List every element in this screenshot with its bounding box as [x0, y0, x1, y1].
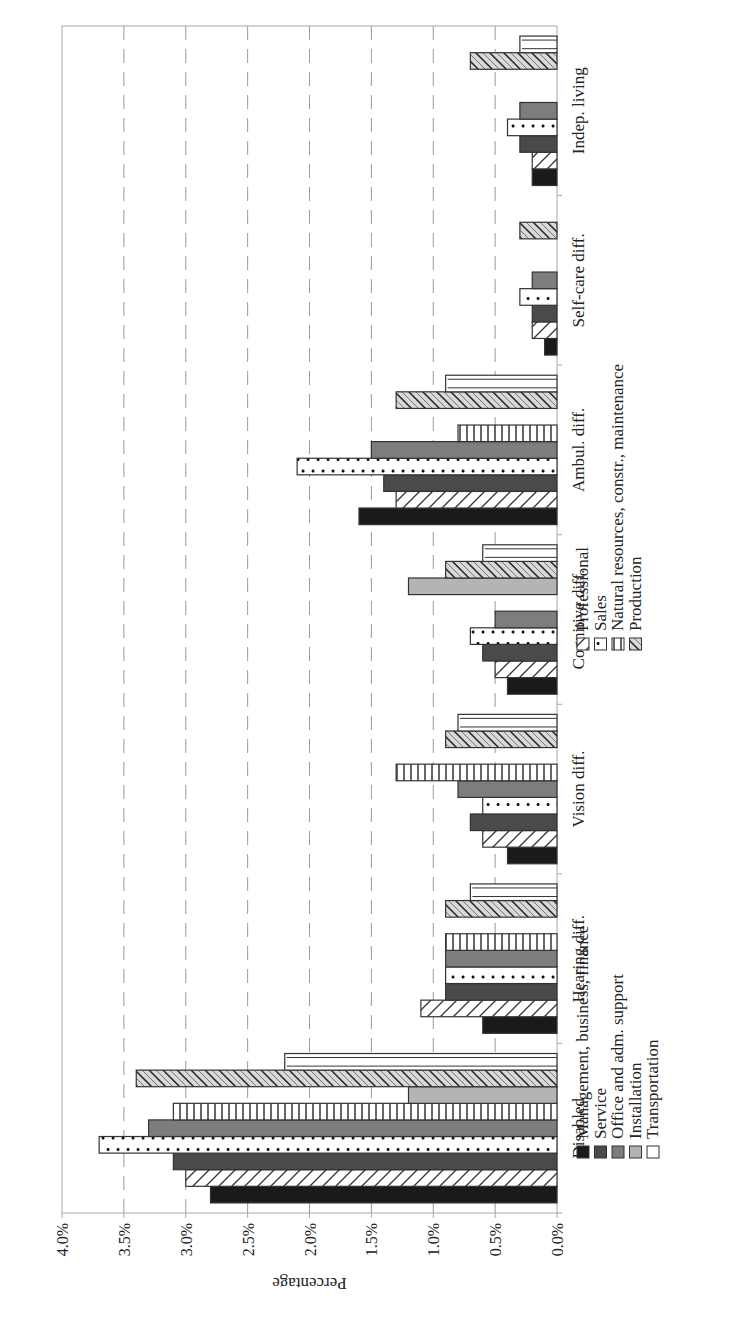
- bar-transportation: [446, 375, 557, 392]
- bar-service: [173, 1153, 557, 1170]
- legend-item: Sales: [591, 595, 610, 650]
- bar-transportation: [458, 714, 557, 731]
- bar-management: [483, 1017, 557, 1034]
- legend-swatch-icon: [577, 638, 589, 650]
- bar-professional: [532, 322, 557, 339]
- bar-management: [532, 169, 557, 186]
- bar-natural: [446, 934, 557, 951]
- bar-professional: [186, 1170, 557, 1187]
- legend-label: Management, business, finance: [573, 926, 592, 1139]
- bar-service: [520, 136, 557, 153]
- legend-item: Installation: [626, 1062, 645, 1158]
- bar-natural: [458, 425, 557, 442]
- y-tick-label: 3.5%: [116, 1223, 133, 1256]
- y-tick-label: 1.0%: [425, 1223, 442, 1256]
- category-label: Ambul. diff.: [569, 408, 588, 492]
- legend-item: Natural resources, constr., maintenance: [608, 364, 627, 650]
- bar-management: [545, 338, 557, 355]
- bar-sales: [520, 289, 557, 306]
- bar-installation: [409, 1087, 558, 1104]
- bar-office: [520, 102, 557, 119]
- category-label: Indep. living: [569, 67, 588, 154]
- bar-installation: [409, 578, 558, 595]
- bar-office: [458, 781, 557, 798]
- bar-production: [446, 731, 557, 748]
- legend-label: Sales: [591, 595, 610, 631]
- legend-label: Transportation: [643, 1039, 662, 1139]
- bar-natural: [173, 1103, 557, 1120]
- plot-frame: [62, 26, 557, 1213]
- y-tick-label: 2.0%: [302, 1223, 319, 1256]
- y-tick-label: 1.5%: [363, 1223, 380, 1256]
- legend-swatch-icon: [595, 1146, 607, 1158]
- bar-sales: [446, 967, 557, 984]
- bar-service: [470, 814, 557, 831]
- bar-sales: [508, 119, 558, 136]
- legend-label: Office and adm. support: [608, 974, 627, 1139]
- bar-production: [470, 53, 557, 70]
- bar-management: [359, 508, 557, 525]
- bar-management: [211, 1186, 558, 1203]
- bar-production: [446, 901, 557, 918]
- bar-production: [446, 561, 557, 578]
- legend-item: Production: [626, 556, 645, 650]
- bar-production: [520, 222, 557, 239]
- bar-service: [532, 305, 557, 322]
- bar-professional: [396, 491, 557, 508]
- bar-transportation: [470, 884, 557, 901]
- bar-office: [371, 442, 557, 459]
- bar-service: [384, 475, 557, 492]
- bar-office: [149, 1120, 557, 1137]
- y-tick-label: 0.5%: [487, 1223, 504, 1256]
- y-tick-label: 4.0%: [54, 1223, 71, 1256]
- legend-swatch-icon: [630, 1146, 642, 1158]
- legend-item: Transportation: [643, 1039, 662, 1158]
- bar-service: [446, 984, 557, 1001]
- legend-item: Management, business, finance: [573, 926, 592, 1158]
- category-label: Vision diff.: [569, 751, 588, 828]
- category-label: Self-care diff.: [569, 233, 588, 327]
- bar-transportation: [520, 36, 557, 53]
- legend-swatch-icon: [630, 638, 642, 650]
- bar-sales: [483, 797, 557, 814]
- bar-professional: [483, 831, 557, 848]
- y-axis-title: Percentage: [272, 1274, 347, 1293]
- legend-item: Office and adm. support: [608, 974, 627, 1158]
- bar-office: [446, 950, 557, 967]
- bar-production: [136, 1070, 557, 1087]
- bar-sales: [99, 1137, 557, 1154]
- legend-label: Natural resources, constr., maintenance: [608, 364, 627, 631]
- bar-professional: [532, 152, 557, 169]
- y-tick-label: 0.0%: [549, 1223, 566, 1256]
- plot-area: [62, 26, 557, 1213]
- chart-canvas: 0.0%0.5%1.0%1.5%2.0%2.5%3.0%3.5%4.0%Perc…: [0, 0, 745, 1327]
- bar-natural: [396, 764, 557, 781]
- bar-professional: [421, 1000, 557, 1017]
- legend-label: Professional: [573, 547, 592, 631]
- legend-item: Service: [591, 1088, 610, 1158]
- bar-professional: [495, 661, 557, 678]
- bar-management: [508, 678, 558, 695]
- legend-swatch-icon: [612, 638, 624, 650]
- bar-transportation: [483, 545, 557, 562]
- bar-production: [396, 392, 557, 409]
- bar-sales: [470, 628, 557, 645]
- bar-service: [483, 644, 557, 661]
- legend-label: Installation: [626, 1062, 645, 1139]
- bar-office: [495, 611, 557, 628]
- legend-label: Production: [626, 556, 645, 631]
- legend-swatch-icon: [612, 1146, 624, 1158]
- legend-label: Service: [591, 1088, 610, 1139]
- bar-office: [532, 272, 557, 289]
- y-tick-label: 3.0%: [178, 1223, 195, 1256]
- bar-transportation: [285, 1054, 557, 1071]
- bar-sales: [297, 458, 557, 475]
- y-tick-label: 2.5%: [240, 1223, 257, 1256]
- legend-swatch-icon: [595, 638, 607, 650]
- bar-chart: 0.0%0.5%1.0%1.5%2.0%2.5%3.0%3.5%4.0%Perc…: [0, 0, 745, 1327]
- legend-swatch-icon: [577, 1146, 589, 1158]
- bar-management: [508, 847, 558, 864]
- legend-swatch-icon: [647, 1146, 659, 1158]
